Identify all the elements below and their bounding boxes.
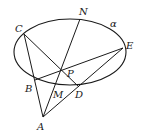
label-E: E <box>125 40 134 51</box>
label-P: P <box>66 68 74 79</box>
diagram-svg: N α C E P B M D A <box>0 0 142 138</box>
segment-CD <box>24 34 79 87</box>
label-B: B <box>24 83 32 94</box>
geometry-diagram: N α C E P B M D A <box>0 0 142 138</box>
segment-AC <box>24 34 43 117</box>
label-D: D <box>74 89 83 100</box>
label-C: C <box>15 23 23 34</box>
segment-AN <box>43 19 80 117</box>
segment-AE <box>43 48 123 117</box>
label-A: A <box>36 121 44 132</box>
label-M: M <box>52 89 64 100</box>
label-N: N <box>78 6 89 17</box>
label-alpha: α <box>110 18 117 29</box>
